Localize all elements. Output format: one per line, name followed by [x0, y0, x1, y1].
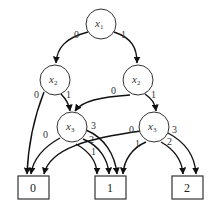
edge-label-x3R-0: 0	[129, 124, 134, 135]
edges	[27, 32, 196, 174]
node-x2R-sub: 2	[137, 79, 141, 87]
edge-label-x3L-0: 0	[43, 129, 48, 140]
terminal-2: 2	[172, 176, 203, 199]
edge-x2R-0	[75, 95, 130, 111]
node-x1-sub: 1	[100, 23, 104, 31]
edge-label-x1-1: 1	[121, 29, 126, 40]
terminal-1: 1	[95, 176, 126, 199]
edge-label-x3L-1: 1	[91, 146, 96, 157]
edge-label-x3R-3: 3	[172, 124, 177, 135]
node-x3-right: x3	[139, 112, 169, 142]
edge-label-x1-0: 0	[74, 29, 79, 40]
edge-label-x2R-0: 0	[111, 85, 116, 96]
edge-label-x3L-2: 2	[89, 134, 94, 145]
edge-label-x2L-0: 0	[34, 89, 39, 100]
edge-label-x3L-3: 3	[91, 120, 96, 131]
node-x3R-sub: 3	[153, 126, 157, 134]
node-x3L-sub: 3	[71, 126, 75, 134]
node-x1: x1	[86, 9, 116, 39]
edge-label-x2R-1: 1	[151, 89, 156, 100]
terminal-1-label: 1	[107, 181, 113, 195]
node-x2-left: x2	[40, 65, 70, 95]
edge-label-x2L-1: 1	[66, 89, 71, 100]
node-x3-left: x3	[57, 112, 87, 142]
edge-label-x3R-2: 2	[167, 136, 172, 147]
node-x2L-sub: 2	[54, 79, 58, 87]
decision-diagram: 0 1 0 1 0 1 0 1 2 3 0 1 2 3 x1 x2 x2 x3 …	[0, 0, 212, 213]
edge-label-x3R-1: 1	[135, 138, 140, 149]
terminal-0: 0	[18, 176, 49, 199]
node-x2-right: x2	[123, 65, 153, 95]
edge-x3R-2	[161, 142, 183, 174]
edge-x1-0	[56, 32, 88, 63]
terminal-0-label: 0	[30, 181, 36, 195]
terminal-2-label: 2	[184, 181, 190, 195]
